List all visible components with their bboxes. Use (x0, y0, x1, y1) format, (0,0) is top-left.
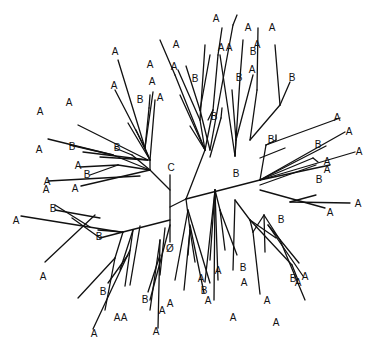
tree-edge (170, 199, 186, 207)
tree-edge (253, 232, 260, 294)
node-label-b: B (289, 72, 296, 83)
node-label-b: B (100, 286, 107, 297)
leaf-label-a: A (159, 305, 166, 316)
leaf-label-a: A (121, 312, 128, 323)
tree-edge (150, 170, 170, 190)
leaf-label-a: A (264, 295, 271, 306)
tree-edge (313, 158, 318, 162)
tree-edge (213, 55, 218, 110)
leaf-label-a: A (13, 215, 20, 226)
node-label-b: B (236, 72, 243, 83)
tree-edge (232, 90, 236, 140)
tree-edge (83, 152, 148, 160)
node-label-b: B (316, 174, 323, 185)
tree-edge (186, 150, 205, 199)
tree-edge (233, 200, 235, 270)
tree-edge (21, 216, 120, 232)
node-label-b: B (192, 73, 199, 84)
tree-edge (290, 195, 316, 202)
node-label-b: B (233, 168, 240, 179)
leaf-label-a: A (355, 198, 362, 209)
leaf-label-a: A (43, 184, 50, 195)
leaf-label-a: A (167, 298, 174, 309)
leaf-label-a: A (75, 160, 82, 171)
leaf-label-a: A (249, 64, 256, 75)
tree-edge (268, 225, 303, 276)
leaf-label-a: A (147, 59, 154, 70)
node-label-b: B (211, 111, 218, 122)
tree-edge (186, 180, 260, 199)
leaf-label-a: A (269, 22, 276, 33)
tree-edge (290, 202, 350, 203)
leaf-label-a: A (111, 80, 118, 91)
leaf-label-a: A (226, 42, 233, 53)
leaf-label-a: A (157, 92, 164, 103)
tree-diagram: C Ø AAAAAAAAAAAAAAAAAAAAAAAAAAAAAAAAAAAA… (0, 0, 375, 351)
leaf-label-a: A (114, 312, 121, 323)
leaf-label-a: A (37, 106, 44, 117)
leaf-label-a: A (149, 76, 156, 87)
tree-edge (78, 258, 115, 298)
tree-edge (235, 200, 250, 220)
leaf-label-a: A (198, 273, 205, 284)
node-label-b: B (278, 214, 285, 225)
tree-edge (260, 145, 266, 180)
tree-edge (280, 82, 290, 105)
node-label-b: B (250, 46, 257, 57)
node-label-b: B (137, 94, 144, 105)
tree-labels: C Ø AAAAAAAAAAAAAAAAAAAAAAAAAAAAAAAAAAAA… (13, 13, 363, 339)
leaf-label-a: A (215, 265, 222, 276)
tree-edge (275, 45, 280, 105)
leaf-label-a: A (153, 326, 160, 337)
leaf-label-a: A (40, 271, 47, 282)
node-label-b: B (96, 231, 103, 242)
node-label-b: B (268, 134, 275, 145)
leaf-label-a: A (112, 46, 119, 57)
node-label-b: B (290, 273, 297, 284)
tree-edge (205, 190, 215, 282)
node-label-c: C (167, 162, 174, 173)
leaf-label-a: A (230, 312, 237, 323)
tree-edge (48, 176, 140, 181)
leaf-label-a: A (241, 277, 248, 288)
leaf-label-a: A (213, 13, 220, 24)
node-label-empty-set: Ø (166, 243, 174, 254)
leaf-label-a: A (36, 144, 43, 155)
node-label-b: B (201, 285, 208, 296)
leaf-label-a: A (334, 112, 341, 123)
tree-edge (149, 95, 150, 108)
leaf-label-a: A (245, 22, 252, 33)
node-label-b: B (114, 142, 121, 153)
leaf-label-a: A (72, 183, 79, 194)
leaf-label-a: A (171, 61, 178, 72)
tree-edge (184, 230, 190, 290)
leaf-label-a: A (218, 42, 225, 53)
leaf-label-a: A (327, 207, 334, 218)
leaf-label-a: A (91, 328, 98, 339)
leaf-label-a: A (302, 271, 309, 282)
leaf-label-a: A (205, 295, 212, 306)
leaf-label-a: A (346, 126, 353, 137)
tree-edge (221, 108, 222, 118)
tree-edge (115, 232, 123, 258)
tree-edge (260, 190, 325, 208)
node-label-b: B (69, 141, 76, 152)
leaf-label-a: A (324, 164, 331, 175)
tree-edge (200, 55, 210, 110)
tree-edge (264, 215, 265, 252)
node-label-b: B (142, 294, 149, 305)
tree-edges (21, 15, 355, 329)
tree-edge (235, 140, 236, 156)
tree-edge (260, 148, 285, 158)
tree-edge (160, 228, 165, 275)
node-label-b: B (315, 139, 322, 150)
tree-edge (233, 15, 237, 25)
node-label-b: B (240, 262, 247, 273)
leaf-label-a: A (66, 97, 73, 108)
leaf-label-a: A (356, 146, 363, 157)
tree-edge (100, 232, 123, 238)
node-label-b: B (50, 203, 57, 214)
leaf-label-a: A (273, 317, 280, 328)
tree-edge (123, 220, 170, 232)
tree-edge (45, 215, 95, 262)
